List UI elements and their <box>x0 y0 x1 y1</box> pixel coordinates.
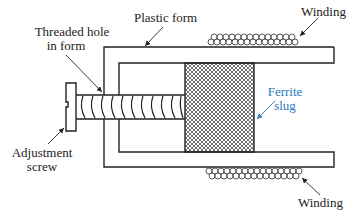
ferrite-slug <box>185 63 254 152</box>
arrow-winding-bottom <box>302 178 320 195</box>
adjustment-screw <box>66 83 185 131</box>
label-threaded-hole-1: Threaded hole <box>35 24 110 39</box>
label-ferrite-1: Ferrite <box>268 84 303 99</box>
label-winding-top: Winding <box>301 4 346 19</box>
arrow-adjustment-screw <box>48 128 64 144</box>
arrow-winding-top <box>300 18 318 36</box>
winding-bottom <box>206 168 302 179</box>
label-adjustment-2: screw <box>27 159 58 174</box>
arrow-plastic-form <box>145 27 163 46</box>
label-adjustment-1: Adjustment <box>12 145 73 160</box>
label-ferrite-2: slug <box>274 98 296 113</box>
label-threaded-hole-2: in form <box>47 38 86 53</box>
winding-top <box>208 34 298 45</box>
label-winding-bottom: Winding <box>298 195 343 210</box>
inductor-diagram: Plastic form Threaded hole in form Windi… <box>0 0 359 218</box>
arrow-ferrite-slug <box>257 101 275 119</box>
label-plastic-form: Plastic form <box>134 10 197 25</box>
